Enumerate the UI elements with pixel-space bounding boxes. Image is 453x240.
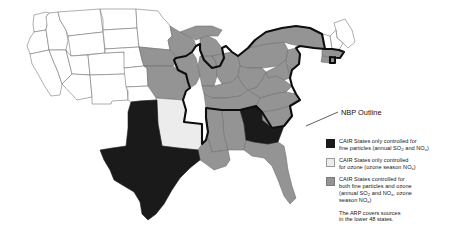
legend-note: The ARP covers sources in the lower 48 s…: [339, 210, 452, 223]
legend-gray-line3-pre: (annual SO: [339, 190, 368, 196]
legend-gray-line3-mid: and NO: [370, 190, 391, 196]
legend-black-line1: CAIR States only controlled for: [339, 138, 417, 144]
state-newmexico: [90, 74, 128, 104]
state-northdakota: [100, 9, 137, 30]
state-connecticut: [321, 56, 330, 63]
nbp-leader-line: [306, 112, 338, 126]
legend-black-line2-mid: and NO: [404, 145, 425, 151]
legend-light-sub1: x: [412, 166, 414, 171]
legend-black-line2-post: ): [427, 145, 429, 151]
state-kansas: [124, 66, 148, 87]
legend-light-line1: CAIR States only controlled: [339, 157, 408, 163]
legend-gray-line2: both fine particles and ozone: [339, 183, 412, 189]
legend-swatch-gray: [326, 177, 335, 186]
legend-gray-line4-post: ): [369, 197, 371, 203]
nbp-outline-label: NBP Outline: [341, 108, 382, 117]
legend-light-line2-pre: for ozone (ozone season NO: [339, 164, 412, 170]
legend-gray-line1: CAIR States controlled for: [339, 176, 405, 182]
legend-gray-line4-pre: season NO: [339, 197, 367, 203]
legend-label-gray: CAIR States controlled for both fine par…: [339, 176, 412, 204]
state-southdakota: [103, 28, 139, 49]
state-wyoming: [68, 32, 105, 56]
legend-black-sub2: x: [425, 147, 427, 152]
state-minnesota: [136, 9, 172, 50]
figure-container: NBP Outline CAIR States only controlled …: [0, 0, 453, 240]
state-colorado: [88, 52, 126, 75]
legend-label-light: CAIR States only controlled for ozone (o…: [339, 157, 416, 171]
state-oregon: [27, 30, 49, 54]
legend-gray-sub1: 2: [368, 192, 370, 197]
legend-gray-line3-post: , ozone: [393, 190, 412, 196]
legend-black-line2-pre: fine particles (annual SO: [339, 145, 401, 151]
legend-note-line2: in the lower 48 states.: [339, 216, 393, 222]
legend-swatch-light: [326, 158, 335, 167]
legend-item-light: CAIR States only controlled for ozone (o…: [326, 157, 452, 171]
state-florida: [244, 140, 296, 204]
legend: CAIR States only controlled for fine par…: [326, 138, 452, 223]
legend-item-black: CAIR States only controlled for fine par…: [326, 138, 452, 152]
legend-swatch-black: [326, 139, 335, 148]
legend-note-line1: The ARP covers sources: [339, 210, 400, 216]
legend-item-gray: CAIR States controlled for both fine par…: [326, 176, 452, 204]
state-indiana: [198, 56, 217, 86]
states-black-group: [100, 100, 284, 220]
legend-black-sub1: 2: [401, 147, 403, 152]
legend-label-black: CAIR States only controlled for fine par…: [339, 138, 429, 152]
